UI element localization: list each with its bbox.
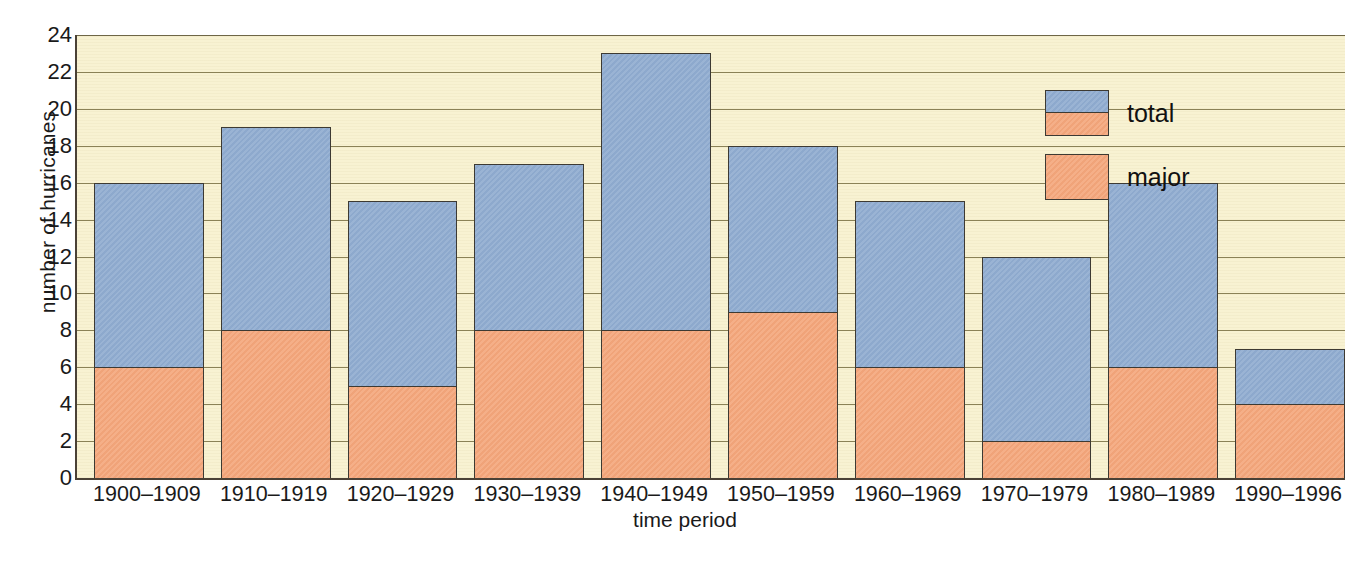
bar-segment-major[interactable] — [1108, 367, 1218, 478]
hurricane-bar-chart-figure: number of hurricanes 2422201816141210864… — [0, 0, 1370, 565]
bar-segment-major[interactable] — [982, 441, 1092, 478]
y-axis-tick-label: 4 — [60, 391, 72, 417]
y-axis-tick-label: 24 — [48, 22, 72, 48]
x-axis-tick-label: 1900–1909 — [84, 482, 211, 507]
bar-group[interactable] — [348, 35, 458, 478]
legend-swatch-total-orange — [1046, 113, 1108, 135]
y-axis-tick-labels: 242220181614121086420 — [36, 35, 72, 478]
x-axis-tick-label: 1930–1939 — [464, 482, 591, 507]
bar-segment-major[interactable] — [474, 330, 584, 478]
bar-group[interactable] — [221, 35, 331, 478]
x-axis-tick-label: 1960–1969 — [844, 482, 971, 507]
legend-swatch-total — [1045, 90, 1109, 136]
y-axis-tick-label: 22 — [48, 59, 72, 85]
legend-swatch-major — [1045, 154, 1109, 200]
x-axis-tick-label: 1940–1949 — [591, 482, 718, 507]
x-axis-title: time period — [0, 508, 1370, 532]
x-axis-tick-label: 1920–1929 — [337, 482, 464, 507]
bar-segment-major[interactable] — [348, 386, 458, 478]
bar-group[interactable] — [474, 35, 584, 478]
y-axis-tick-label: 20 — [48, 96, 72, 122]
bar-group[interactable] — [855, 35, 965, 478]
bar-segment-major[interactable] — [1235, 404, 1345, 478]
y-axis-tick-label: 2 — [60, 428, 72, 454]
legend-label-major: major — [1127, 163, 1190, 192]
x-axis-tick-label: 1910–1919 — [210, 482, 337, 507]
legend-entry-total: total — [1045, 90, 1174, 136]
y-axis-tick-label: 14 — [48, 207, 72, 233]
y-axis-tick-label: 10 — [48, 280, 72, 306]
bar-segment-major[interactable] — [728, 312, 838, 478]
x-axis-tick-label: 1980–1989 — [1098, 482, 1225, 507]
y-axis-tick-label: 8 — [60, 317, 72, 343]
legend-label-total: total — [1127, 99, 1174, 128]
bar-group[interactable] — [1235, 35, 1345, 478]
x-axis-tick-label: 1970–1979 — [971, 482, 1098, 507]
bar-segment-major[interactable] — [94, 367, 204, 478]
x-axis-tick-label: 1990–1996 — [1225, 482, 1352, 507]
y-axis-tick-label: 12 — [48, 244, 72, 270]
bar-group[interactable] — [94, 35, 204, 478]
bar-group[interactable] — [728, 35, 838, 478]
caption-strip — [0, 549, 1370, 565]
bar-segment-major[interactable] — [855, 367, 965, 478]
y-axis-tick-label: 16 — [48, 170, 72, 196]
y-axis-tick-label: 6 — [60, 354, 72, 380]
y-axis-tick-label: 18 — [48, 133, 72, 159]
bar-segment-major[interactable] — [221, 330, 331, 478]
plot-area: total major — [75, 35, 1345, 480]
bar-group[interactable] — [601, 35, 711, 478]
legend-entry-major: major — [1045, 154, 1190, 200]
y-axis-tick-label: 0 — [60, 465, 72, 491]
legend-swatch-total-blue — [1046, 91, 1108, 113]
x-axis-tick-label: 1950–1959 — [718, 482, 845, 507]
bar-segment-major[interactable] — [601, 330, 711, 478]
